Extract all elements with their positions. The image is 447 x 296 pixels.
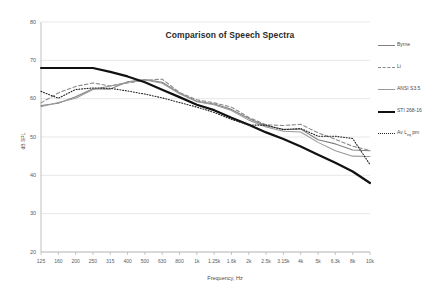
legend-item-label: Byrne — [397, 41, 410, 47]
y-tick-label: 60 — [14, 95, 36, 101]
series-lines — [41, 68, 370, 183]
y-axis-title: dB SPL — [20, 111, 26, 171]
legend-swatch-icon — [378, 45, 395, 50]
legend-item-label: STI 268-16 — [397, 107, 422, 113]
legend-item-label: ANSI S3.5 — [397, 85, 420, 91]
legend-swatch-icon — [378, 111, 395, 117]
y-tick-label: 30 — [14, 210, 36, 216]
axis-lines — [41, 22, 370, 255]
legend-swatch-icon — [378, 67, 395, 72]
y-tick-label: 70 — [14, 57, 36, 63]
x-axis-title: Frequency, Hz — [155, 275, 295, 281]
legend-swatch-icon — [378, 133, 395, 138]
chart-title: Comparison of Speech Spectra — [120, 30, 340, 40]
legend-item[interactable]: STI 268-16 — [378, 104, 447, 126]
legend-item[interactable]: ANSI S3.5 — [378, 82, 447, 104]
legend-item-label: Li — [397, 63, 401, 69]
legend-item[interactable]: Av Leq pm — [378, 126, 447, 148]
y-tick-label: 80 — [14, 19, 36, 25]
series-line-2 — [41, 80, 370, 157]
y-tick-label: 20 — [14, 249, 36, 255]
legend-swatch-icon — [378, 89, 395, 94]
x-tick-label: 10k — [360, 258, 380, 264]
y-tick-label: 50 — [14, 134, 36, 140]
speech-spectra-chart: Comparison of Speech Spectra dB SPL Freq… — [0, 0, 447, 296]
y-tick-label: 40 — [14, 172, 36, 178]
legend-item[interactable]: Byrne — [378, 38, 447, 60]
legend-item-label: Av Leq pm — [397, 129, 419, 137]
series-line-3 — [41, 68, 370, 183]
gridlines — [41, 22, 370, 252]
chart-legend: ByrneLiANSI S3.5STI 268-16Av Leq pm — [378, 38, 447, 148]
series-line-4 — [41, 88, 370, 165]
legend-item[interactable]: Li — [378, 60, 447, 82]
